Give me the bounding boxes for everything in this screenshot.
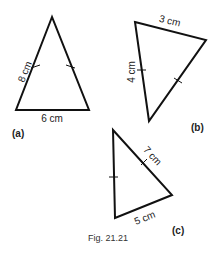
tag-b: (b) bbox=[191, 122, 204, 133]
label-b-top-side: 3 cm bbox=[158, 13, 182, 29]
label-c-base: 5 cm bbox=[133, 209, 157, 227]
triangle-b-shape bbox=[135, 22, 206, 121]
triangle-c: 7 cm 5 cm (c) bbox=[109, 130, 184, 236]
figure-canvas: 8 cm 6 cm (a) 3 cm 4 cm (b) 7 cm 5 cm (c… bbox=[0, 0, 223, 257]
tag-a: (a) bbox=[12, 128, 24, 139]
triangle-b: 3 cm 4 cm (b) bbox=[126, 13, 206, 133]
triangles-diagram: 8 cm 6 cm (a) 3 cm 4 cm (b) 7 cm 5 cm (c… bbox=[0, 0, 223, 257]
label-a-base: 6 cm bbox=[41, 113, 63, 124]
triangle-a: 8 cm 6 cm (a) bbox=[12, 17, 89, 139]
triangle-c-shape bbox=[113, 130, 172, 218]
label-b-left-side: 4 cm bbox=[126, 61, 137, 83]
tag-c: (c) bbox=[172, 225, 184, 236]
figure-caption: Fig. 21.21 bbox=[88, 233, 128, 243]
